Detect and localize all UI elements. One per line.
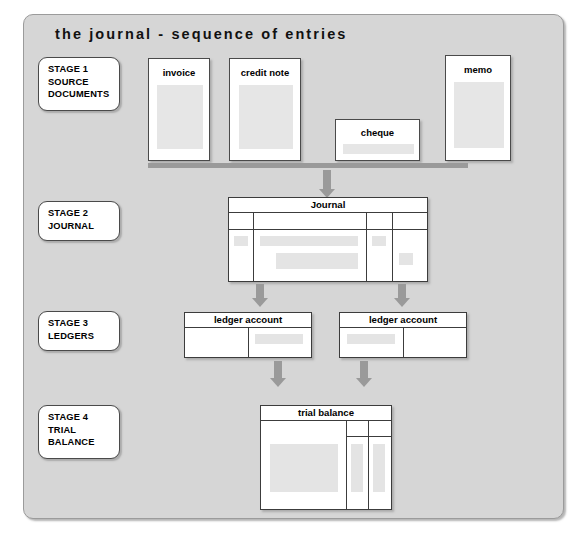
source-document-credit-note-body (239, 85, 293, 149)
trial-balance-debit-band (351, 444, 363, 492)
trial-balance-table: trial balance (260, 405, 392, 510)
journal-table-column-divider-2 (366, 213, 367, 282)
source-document-cheque-body (343, 144, 414, 154)
source-document-memo: memo (445, 55, 511, 161)
stage-label-2-line-1: STAGE 2 (48, 207, 119, 220)
source-document-invoice: invoice (148, 58, 210, 161)
ledger-account-right-column-divider (403, 328, 404, 358)
ledger-account-right-debit-band (347, 334, 395, 344)
source-document-cheque: cheque (335, 119, 420, 161)
trial-balance-table-title: trial balance (261, 406, 391, 421)
stage-label-2: STAGE 2 JOURNAL (38, 201, 120, 241)
journal-entry-credit-band (399, 253, 413, 265)
stage-label-3-line-1: STAGE 3 (48, 317, 119, 330)
journal-entry-narrative-band-1 (260, 236, 358, 246)
stage-1-collector-bar (148, 163, 468, 168)
source-document-memo-body (454, 82, 504, 148)
journal-entry-narrative-band-2 (276, 253, 358, 269)
source-document-invoice-body (157, 85, 203, 149)
stage-label-3: STAGE 3 LEDGERS (38, 311, 120, 351)
source-document-memo-label: memo (446, 64, 510, 75)
ledger-account-left-column-divider (248, 328, 249, 358)
stage-label-4-line-3: BALANCE (48, 436, 119, 449)
stage-label-1-line-2: SOURCE (48, 76, 119, 89)
ledger-account-left-title: ledger account (185, 313, 311, 328)
trial-balance-amount-header-divider (346, 436, 392, 437)
stage-label-1-line-3: DOCUMENTS (48, 88, 119, 101)
stage-label-2-line-2: JOURNAL (48, 220, 119, 233)
journal-table: Journal (228, 197, 428, 282)
journal-table-column-divider-1 (253, 213, 254, 282)
trial-balance-credit-band (373, 444, 385, 492)
stage-label-4-line-2: TRIAL (48, 424, 119, 437)
source-document-cheque-label: cheque (336, 127, 419, 138)
ledger-account-right-title: ledger account (340, 313, 466, 328)
journal-table-row-divider (229, 229, 427, 230)
stage-label-1-line-1: STAGE 1 (48, 63, 119, 76)
ledger-account-left: ledger account (184, 312, 312, 358)
trial-balance-column-divider-1 (346, 421, 347, 510)
source-document-credit-note: credit note (229, 58, 301, 161)
stage-label-1: STAGE 1 SOURCE DOCUMENTS (38, 57, 120, 111)
journal-entry-debit-band (372, 236, 386, 246)
source-document-invoice-label: invoice (149, 67, 209, 78)
ledger-account-left-credit-band (255, 334, 303, 344)
trial-balance-accounts-band (270, 444, 338, 492)
journal-entry-date-band (234, 236, 248, 246)
stage-label-4: STAGE 4 TRIAL BALANCE (38, 405, 120, 459)
diagram-panel: the journal - sequence of entries STAGE … (23, 14, 564, 519)
source-document-credit-note-label: credit note (230, 67, 300, 78)
page-title: the journal - sequence of entries (55, 26, 348, 42)
stage-label-3-line-2: LEDGERS (48, 330, 119, 343)
trial-balance-column-divider-2 (368, 421, 369, 510)
journal-table-column-divider-3 (392, 213, 393, 282)
journal-table-title: Journal (229, 198, 427, 213)
ledger-account-right: ledger account (339, 312, 467, 358)
stage-label-4-line-1: STAGE 4 (48, 411, 119, 424)
diagram-root: the journal - sequence of entries STAGE … (0, 0, 577, 543)
